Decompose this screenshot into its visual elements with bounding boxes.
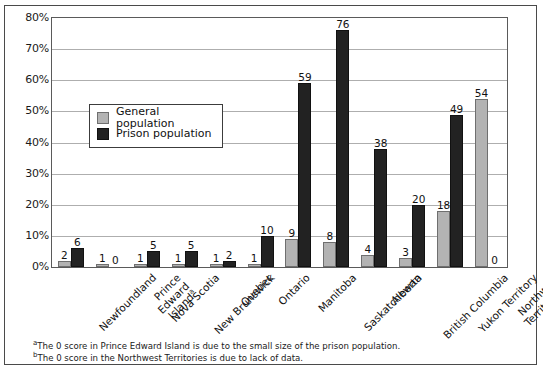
bar-value-label: 10 <box>260 225 273 236</box>
y-axis-tick-label: 60% <box>5 74 49 85</box>
legend-swatch-prison-icon <box>97 128 109 140</box>
y-axis-tick-label: 40% <box>5 137 49 148</box>
bar-prison-population[interactable]: 5 <box>185 251 198 267</box>
legend-item-general: General population <box>97 110 215 126</box>
bar-value-label: 2 <box>61 250 68 261</box>
footnote-b: bThe 0 score in the Northwest Territorie… <box>33 352 503 364</box>
y-axis-tick-label: 20% <box>5 199 49 210</box>
bar-value-label: 1 <box>137 253 144 264</box>
bar-value-label: 38 <box>374 138 387 149</box>
bar-general-population[interactable]: 9 <box>285 239 298 267</box>
bar-general-population[interactable]: 54 <box>475 99 488 267</box>
bar-value-label: 2 <box>226 250 233 261</box>
bar-value-label: 5 <box>188 240 195 251</box>
bar-value-label: 8 <box>327 231 334 242</box>
bar-value-label: 1 <box>99 253 106 264</box>
footnotes: aThe 0 score in Prince Edward Island is … <box>33 340 503 364</box>
bar-group: 26 <box>58 18 84 267</box>
y-axis-tick-label: 30% <box>5 168 49 179</box>
chart-legend: General population Prison population <box>89 104 223 148</box>
bar-prison-population[interactable]: 2 <box>223 261 236 267</box>
bar-prison-population[interactable]: 5 <box>147 251 160 267</box>
y-axis-tick-label: 70% <box>5 43 49 54</box>
bar-value-label: 59 <box>298 72 311 83</box>
bar-group: 110 <box>248 18 274 267</box>
bar-general-population[interactable]: 1 <box>172 264 185 267</box>
footnote-marker: a <box>33 339 37 347</box>
bar-value-label: 0 <box>112 255 119 266</box>
y-axis-tick-label: 0% <box>5 261 49 272</box>
bar-general-population[interactable]: 1 <box>96 264 109 267</box>
bar-value-label: 1 <box>251 253 258 264</box>
bar-group: 320 <box>399 18 425 267</box>
legend-label-prison: Prison population <box>116 128 211 140</box>
bar-prison-population[interactable]: 20 <box>412 205 425 267</box>
bar-value-label: 20 <box>412 194 425 205</box>
bar-prison-population[interactable]: 6 <box>71 248 84 267</box>
bar-general-population[interactable]: 8 <box>323 242 336 267</box>
bar-value-label: 5 <box>150 240 157 251</box>
bar-group: 876 <box>323 18 349 267</box>
bar-group: 959 <box>285 18 311 267</box>
x-axis: NewfoundlandPrince Edward IslandaNova Sc… <box>51 269 508 335</box>
bar-general-population[interactable]: 3 <box>399 258 412 267</box>
bar-group: 438 <box>361 18 387 267</box>
bar-value-label: 18 <box>437 200 450 211</box>
figure-frame: 0%10%20%30%40%50%60%70%80% 2610151512110… <box>4 5 537 365</box>
bar-group: 1849 <box>437 18 463 267</box>
bar-general-population[interactable]: 4 <box>361 255 374 267</box>
bar-general-population[interactable]: 1 <box>134 264 147 267</box>
bar-prison-population[interactable]: 49 <box>450 115 463 268</box>
bar-general-population[interactable]: 1 <box>210 264 223 267</box>
bar-general-population[interactable]: 18 <box>437 211 450 267</box>
bar-prison-population[interactable]: 38 <box>374 149 387 267</box>
y-axis-tick-label: 80% <box>5 12 49 23</box>
y-axis-tick-label: 10% <box>5 230 49 241</box>
bar-value-label: 76 <box>336 19 349 30</box>
bar-value-label: 1 <box>213 253 220 264</box>
bar-value-label: 9 <box>289 228 296 239</box>
legend-item-prison: Prison population <box>97 126 215 142</box>
bar-prison-population[interactable]: 59 <box>298 83 311 267</box>
bar-value-label: 54 <box>475 88 488 99</box>
legend-swatch-general-icon <box>97 112 109 124</box>
y-axis: 0%10%20%30%40%50%60%70%80% <box>5 6 49 268</box>
bar-general-population[interactable]: 1 <box>248 264 261 267</box>
bar-value-label: 0 <box>491 255 498 266</box>
bar-value-label: 49 <box>450 104 463 115</box>
footnote-a: aThe 0 score in Prince Edward Island is … <box>33 340 503 352</box>
bar-prison-population[interactable]: 76 <box>336 30 349 267</box>
bar-value-label: 4 <box>364 244 371 255</box>
footnote-marker: b <box>33 351 37 359</box>
y-axis-tick-label: 50% <box>5 105 49 116</box>
bar-general-population[interactable]: 2 <box>58 261 71 267</box>
bar-value-label: 1 <box>175 253 182 264</box>
bar-value-label: 6 <box>74 237 81 248</box>
bar-prison-population[interactable]: 10 <box>261 236 274 267</box>
bar-group: 540 <box>475 18 501 267</box>
bar-value-label: 3 <box>402 247 409 258</box>
